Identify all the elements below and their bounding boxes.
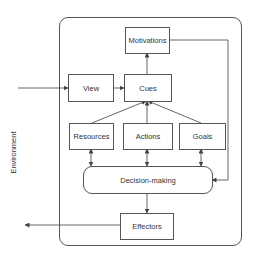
cues-label: Cues	[139, 84, 157, 93]
goals-node: Goals	[179, 123, 226, 150]
effectors-node: Effectors	[120, 213, 174, 240]
view-label: View	[83, 84, 99, 93]
view-node: View	[68, 74, 114, 102]
decision-making-node: Decision-making	[83, 166, 213, 194]
actions-node: Actions	[123, 123, 173, 150]
resources-label: Resources	[74, 132, 110, 141]
motivations-label: Motivations	[129, 36, 167, 45]
resources-node: Resources	[69, 123, 114, 150]
actions-label: Actions	[136, 132, 161, 141]
environment-label: Environment	[9, 128, 18, 178]
cues-node: Cues	[124, 74, 172, 102]
motivations-node: Motivations	[125, 27, 170, 54]
goals-label: Goals	[193, 132, 213, 141]
decision-making-label: Decision-making	[120, 176, 175, 185]
effectors-label: Effectors	[132, 222, 161, 231]
